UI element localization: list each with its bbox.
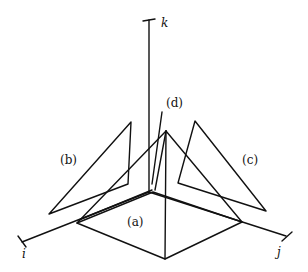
k-axis: k bbox=[143, 16, 168, 192]
pyramid-edge-front bbox=[165, 131, 166, 259]
i-axis-label: i bbox=[22, 247, 26, 261]
pyramid-edge-right bbox=[166, 131, 242, 222]
k-axis-tick bbox=[143, 19, 155, 21]
j-axis-tick bbox=[282, 232, 292, 241]
triangle-b-shape bbox=[49, 122, 131, 214]
label-c: (c) bbox=[242, 153, 258, 167]
triangle-b: (b) bbox=[49, 122, 131, 214]
label-a: (a) bbox=[127, 215, 144, 229]
triangle-c: (c) bbox=[178, 121, 266, 211]
pyramid-base bbox=[77, 192, 242, 259]
label-b: (b) bbox=[60, 153, 77, 167]
k-axis-label: k bbox=[161, 16, 168, 30]
diagram: k i j (a) (b) (c) (d) bbox=[0, 0, 308, 272]
label-d: (d) bbox=[166, 96, 183, 110]
j-axis-label: j bbox=[274, 245, 281, 259]
d-pointer-line bbox=[152, 112, 162, 184]
j-axis: j bbox=[149, 192, 292, 259]
